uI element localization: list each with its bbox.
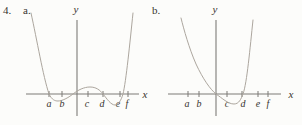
tick-label-c: c	[225, 98, 230, 109]
panel-b-label: b.	[152, 4, 161, 16]
panel-b-x-axis-label: x	[288, 88, 294, 100]
panel-a-x-axis-label: x	[142, 88, 148, 100]
tick-label-d: d	[241, 98, 247, 109]
panel-b: b. y x a b c d e f	[152, 3, 294, 116]
tick-label-f: f	[126, 98, 130, 109]
tick-label-e: e	[256, 98, 261, 109]
tick-label-c: c	[85, 98, 90, 109]
problem-number: 4.	[3, 4, 12, 16]
panel-a-y-axis-label: y	[73, 3, 79, 15]
figure-canvas: 4. a. y x a b c d e f	[0, 0, 302, 125]
panel-a-curve	[31, 13, 133, 105]
textbook-figure: 4. a. y x a b c d e f	[0, 0, 302, 125]
panel-a-label: a.	[23, 4, 31, 16]
tick-label-b: b	[197, 98, 202, 109]
tick-label-d: d	[100, 98, 106, 109]
tick-label-a: a	[47, 98, 52, 109]
panel-b-y-axis-label: y	[212, 3, 218, 15]
tick-label-f: f	[267, 98, 271, 109]
tick-label-a: a	[185, 98, 190, 109]
panel-a: a. y x a b c d e f	[23, 3, 148, 116]
